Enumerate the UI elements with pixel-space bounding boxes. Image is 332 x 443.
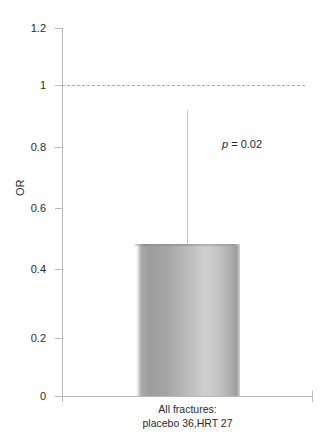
- y-axis-tick-0.2: [55, 338, 63, 339]
- y-axis-tick-0.6: [55, 208, 63, 209]
- y-axis-label-1: 1: [4, 80, 46, 91]
- y-axis-label-1.2: 1.2: [4, 23, 46, 34]
- y-axis-title: OR: [14, 180, 26, 197]
- y-axis-line: [62, 28, 63, 397]
- y-axis-label-0.2: 0.2: [4, 333, 46, 344]
- category-line-1: All fractures:: [62, 402, 313, 416]
- y-axis-label-0.8: 0.8: [4, 142, 46, 153]
- p-value-annotation: p = 0.02: [222, 138, 262, 150]
- x-axis-category-label: All fractures: placebo 36,HRT 27: [62, 402, 313, 430]
- x-axis-tick-right: [312, 391, 313, 402]
- y-axis-label-0.6: 0.6: [4, 203, 46, 214]
- x-axis-tick-left: [62, 391, 63, 402]
- chart-figure: 1.2 1 0.8 0.6 0.4 0.2 0 OR p = 0.02 All …: [0, 0, 332, 443]
- p-value-text: = 0.02: [228, 138, 262, 150]
- y-axis-tick-0.4: [55, 269, 63, 270]
- category-line-2: placebo 36,HRT 27: [62, 416, 313, 430]
- error-bar-whisker: [187, 110, 188, 246]
- reference-line-or-1: [62, 85, 305, 86]
- y-axis-label-0.4: 0.4: [4, 264, 46, 275]
- bar-top-edge: [135, 244, 240, 246]
- y-axis-label-0: 0: [4, 391, 46, 402]
- bar-all-fractures: [135, 245, 240, 396]
- y-axis-tick-1.2: [55, 28, 63, 29]
- y-axis-tick-0.8: [55, 147, 63, 148]
- x-axis-line: [62, 396, 313, 397]
